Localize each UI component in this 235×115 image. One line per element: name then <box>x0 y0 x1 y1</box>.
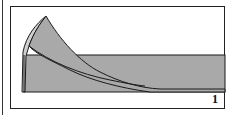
step-number: 1 <box>212 93 218 105</box>
origami-diagram <box>0 0 235 115</box>
